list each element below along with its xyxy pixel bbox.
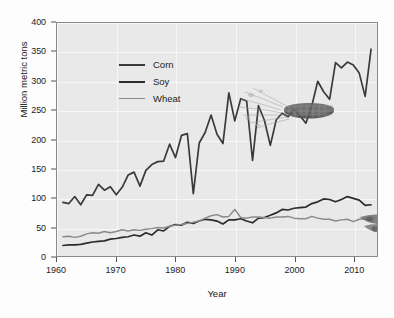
legend-label: Soy [153, 76, 169, 87]
x-axis-tick-label: 2000 [285, 265, 305, 275]
x-axis-tick-label: 1980 [165, 265, 185, 275]
y-axis-tick-label: 200 [31, 135, 46, 145]
legend: CornSoyWheat [119, 57, 180, 108]
y-axis-tick-label: 250 [31, 105, 46, 115]
x-axis: 196019701980199020002010 [56, 257, 378, 277]
legend-item-soy[interactable]: Soy [119, 74, 180, 89]
y-axis-tick-label: 50 [36, 223, 46, 233]
x-axis-tick-mark [56, 257, 57, 262]
y-axis-tick-label: 0 [41, 252, 46, 262]
x-axis-tick-label: 1970 [106, 265, 126, 275]
y-axis-tick-label: 300 [31, 76, 46, 86]
y-axis-tick-label: 400 [31, 17, 46, 27]
chart-figure: 050100150200250300350400 Million metric … [0, 0, 394, 318]
legend-label: Corn [153, 59, 174, 70]
series-layer [57, 23, 377, 256]
x-axis-tick-label: 2010 [344, 265, 364, 275]
plot-area: CornSoyWheat [56, 22, 378, 257]
y-axis-tick-label: 350 [31, 46, 46, 56]
x-axis-tick-mark [116, 257, 117, 262]
legend-label: Wheat [153, 93, 180, 104]
series-line-soy [63, 197, 371, 246]
y-axis-title: Million metric tons [18, 0, 29, 160]
x-axis-title: Year [56, 288, 378, 299]
series-line-wheat [63, 209, 371, 237]
x-axis-tick-mark [295, 257, 296, 262]
y-axis-tick-label: 100 [31, 193, 46, 203]
legend-swatch-icon [119, 64, 145, 66]
legend-item-corn[interactable]: Corn [119, 57, 180, 72]
x-axis-tick-mark [175, 257, 176, 262]
x-axis-tick-label: 1960 [46, 265, 66, 275]
legend-item-wheat[interactable]: Wheat [119, 91, 180, 106]
series-line-corn [63, 49, 371, 205]
legend-swatch-icon [119, 81, 145, 83]
legend-swatch-icon [119, 98, 145, 99]
x-axis-tick-mark [354, 257, 355, 262]
y-axis-tick-label: 150 [31, 164, 46, 174]
x-axis-tick-label: 1990 [225, 265, 245, 275]
x-axis-tick-mark [235, 257, 236, 262]
